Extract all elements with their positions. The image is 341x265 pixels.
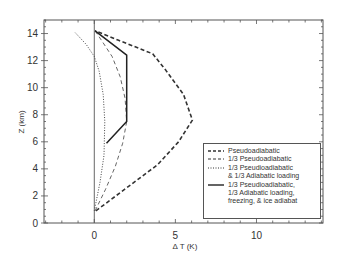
- dotted-line-icon: [208, 164, 224, 172]
- x-tick-label: 5: [173, 230, 179, 241]
- y-tick-label: 0: [32, 218, 38, 229]
- y-axis-label: Z (km): [17, 110, 26, 133]
- legend-label: 1/3 Pseudioadiabatic, 1/3 Adiabatic load…: [228, 181, 297, 206]
- legend-label: 1/3 Pseudoadiabatic: [228, 155, 291, 163]
- solid-line-icon: [208, 181, 224, 189]
- x-axis-label: Δ T (K): [173, 242, 198, 251]
- legend-item-ice-adiabat: 1/3 Pseudioadiabatic, 1/3 Adiabatic load…: [208, 181, 317, 206]
- series-line: [75, 32, 105, 211]
- legend-item-third-pseudoadiabatic: 1/3 Pseudoadiabatic: [208, 155, 317, 163]
- chart-plot: 051002468101214 Δ T (K) Z (km): [0, 0, 341, 265]
- y-tick-label: 6: [32, 136, 38, 147]
- legend-label: Pseudoadiabatic: [228, 147, 280, 155]
- y-tick-label: 2: [32, 190, 38, 201]
- thin-dashed-line-icon: [208, 155, 224, 163]
- y-tick-label: 4: [32, 163, 38, 174]
- series-line: [95, 31, 127, 211]
- data-series: [75, 31, 193, 211]
- y-tick-label: 12: [27, 55, 39, 66]
- legend-item-adiabatic-loading: 1/3 Pseudioadiabatic & 1/3 Adiabatic loa…: [208, 164, 317, 181]
- x-tick-label: 10: [251, 230, 263, 241]
- legend-item-pseudoadiabatic: Pseudoadiabatic: [208, 147, 317, 155]
- y-tick-label: 14: [27, 28, 39, 39]
- x-tick-label: 0: [92, 230, 98, 241]
- legend-label: 1/3 Pseudioadiabatic & 1/3 Adiabatic loa…: [228, 164, 299, 181]
- y-tick-label: 8: [32, 109, 38, 120]
- legend: Pseudoadiabatic 1/3 Pseudoadiabatic 1/3 …: [203, 143, 321, 219]
- series-line: [95, 31, 127, 143]
- series-line: [95, 31, 192, 211]
- bold-dashed-line-icon: [208, 147, 224, 155]
- y-tick-label: 10: [27, 82, 39, 93]
